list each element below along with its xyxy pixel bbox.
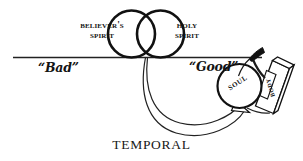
diagram-canvas: Believer's Spirit Holy Spirit “Bad” “Goo…: [0, 0, 303, 161]
good-label: “Good”: [189, 61, 238, 74]
believers-spirit-label-line2: Spirit: [74, 31, 130, 41]
holy-spirit-label-line2: Spirit: [163, 31, 211, 41]
spirit-hook-shape: [250, 48, 265, 62]
bad-label: “Bad”: [38, 62, 79, 75]
believers-spirit-label-line1: Believer's: [80, 20, 124, 30]
temporal-label: TEMPORAL: [0, 138, 303, 152]
holy-spirit-label: Holy Spirit: [163, 21, 211, 40]
believers-spirit-label: Believer's Spirit: [74, 21, 130, 40]
holy-spirit-label-line1: Holy: [177, 20, 197, 30]
